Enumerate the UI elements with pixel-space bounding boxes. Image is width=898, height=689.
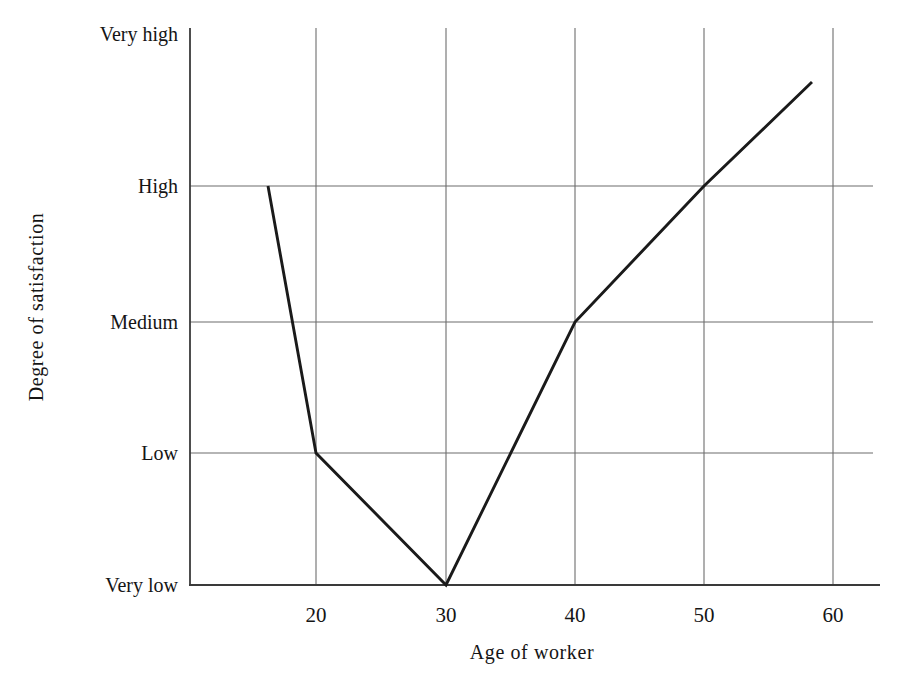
x-tick-label-40: 40: [565, 603, 586, 627]
x-tick-label-30: 30: [436, 603, 457, 627]
chart-page: Very high High Medium Low Very low 20 30…: [0, 0, 898, 689]
y-tick-label-medium: Medium: [110, 311, 178, 333]
y-tick-label-very-high: Very high: [100, 23, 178, 46]
y-axis-title: Degree of satisfaction: [25, 213, 48, 402]
x-tick-label-20: 20: [306, 603, 327, 627]
y-tick-label-very-low: Very low: [105, 574, 178, 597]
x-axis-title: Age of worker: [470, 641, 594, 664]
x-tick-label-50: 50: [694, 603, 715, 627]
line-chart: Very high High Medium Low Very low 20 30…: [0, 0, 898, 689]
x-tick-label-60: 60: [823, 603, 844, 627]
y-tick-label-low: Low: [141, 442, 178, 464]
y-tick-label-high: High: [138, 175, 178, 198]
